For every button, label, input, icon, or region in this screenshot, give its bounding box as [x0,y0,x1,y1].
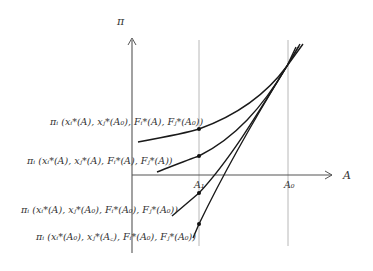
diagram-canvas: π A A₁ A₀ πᵢ (xᵢ*(A), xⱼ*(A₀), Fᵢ*(A), F… [0,0,373,271]
point-curve-4-a1 [197,222,201,226]
curve-2-label: πᵢ (xᵢ*(A), xⱼ*(A), Fᵢ*(A), Fⱼ*(A)) [26,155,173,166]
point-curve-2-a1 [197,154,201,158]
x-axis-label: A [342,169,351,182]
y-axis [128,38,136,253]
point-curve-3-a1 [197,191,201,195]
curve-4-label: πᵢ (xᵢ*(A₀), xⱼ*(A꜀), Fᵢ*(A₀), Fⱼ*(A₀)) [35,231,196,242]
curve-4 [193,44,303,238]
curve-1 [138,47,296,142]
curve-1-label: πᵢ (xᵢ*(A), xⱼ*(A₀), Fᵢ*(A), Fⱼ*(A₀)) [49,116,203,127]
curve-3-label: πᵢ (xᵢ*(A), xⱼ*(A₀), Fᵢ*(A₀), Fⱼ*(A₀)) [20,204,178,215]
point-curve-1-a1 [197,127,201,131]
y-axis-label: π [116,15,125,28]
x-axis [132,171,332,179]
tick-label-a0: A₀ [283,179,295,190]
curve-2 [157,46,299,172]
